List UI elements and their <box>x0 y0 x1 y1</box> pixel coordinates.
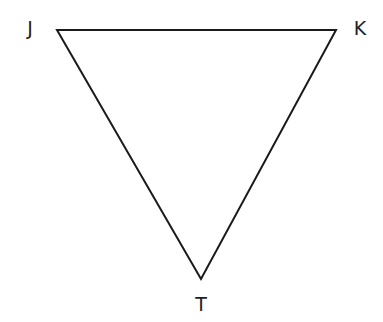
triangle-diagram: J K T <box>0 0 383 322</box>
triangle-jkt <box>57 30 336 279</box>
vertex-label-j: J <box>26 17 33 39</box>
vertex-label-t: T <box>194 293 207 315</box>
vertex-label-k: K <box>354 17 367 39</box>
